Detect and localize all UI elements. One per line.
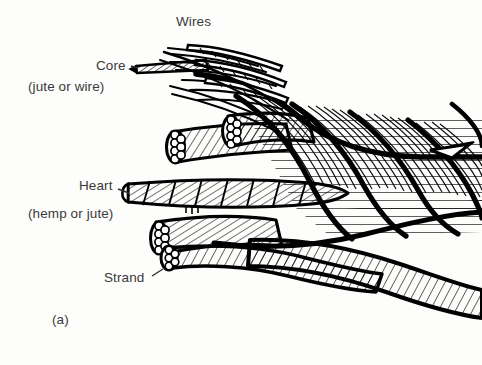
label-strand: Strand	[104, 270, 144, 285]
leader-strand	[152, 269, 163, 276]
label-core: Core	[96, 58, 126, 73]
label-heart-subtext: (hemp or jute)	[28, 206, 113, 221]
label-heart: Heart	[79, 178, 113, 193]
wire-rope-diagram	[0, 0, 482, 365]
label-wires: Wires	[176, 14, 211, 29]
label-core-subtext: (jute or wire)	[28, 79, 104, 94]
figure-letter: (a)	[52, 312, 69, 327]
lower-right-strand	[248, 240, 482, 318]
